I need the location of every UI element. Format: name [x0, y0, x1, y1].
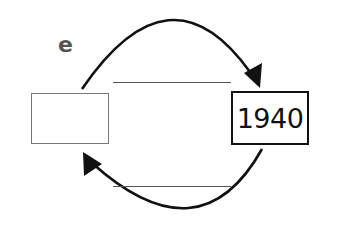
blank-answer-box[interactable] [31, 93, 109, 144]
bottom-answer-line[interactable] [113, 186, 231, 187]
bottom-arrowhead-icon [83, 152, 102, 176]
year-box: 1940 [231, 91, 309, 145]
top-arrow-arc [82, 20, 250, 89]
top-answer-line[interactable] [113, 82, 231, 83]
bottom-arrow-arc [92, 149, 262, 208]
year-value: 1940 [237, 105, 304, 132]
